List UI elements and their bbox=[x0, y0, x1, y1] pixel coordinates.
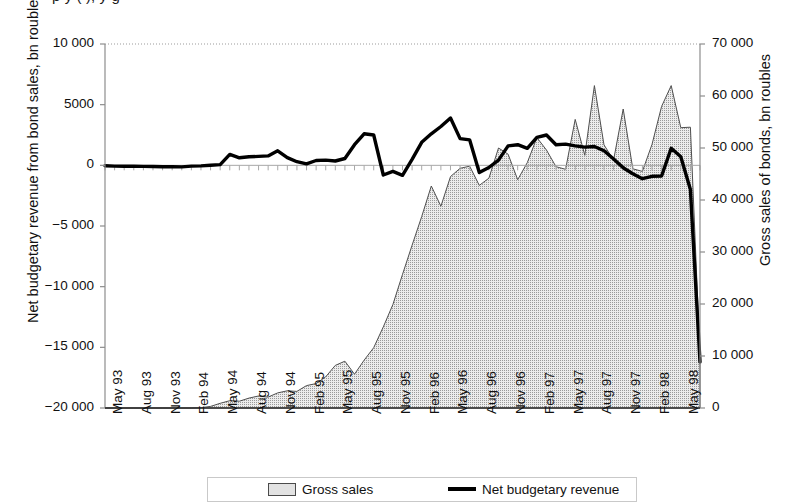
right-axis-tick-label: 60 000 bbox=[712, 87, 753, 102]
x-axis-tick-label: Nov 96 bbox=[513, 371, 528, 414]
left-axis-tick-label: −20 000 bbox=[0, 399, 94, 414]
area-swatch-icon bbox=[268, 483, 296, 496]
x-axis-tick-label: Aug 95 bbox=[369, 371, 384, 414]
right-axis-tick-label: 20 000 bbox=[712, 295, 753, 310]
right-axis-tick-label: 50 000 bbox=[712, 139, 753, 154]
x-axis-tick-label: May 95 bbox=[340, 370, 355, 414]
left-axis-tick-label: −10 000 bbox=[0, 278, 94, 293]
legend-label-gross-sales: Gross sales bbox=[302, 482, 373, 497]
left-axis-tick-label: 0 bbox=[0, 156, 94, 171]
x-axis-tick-label: Aug 96 bbox=[484, 371, 499, 414]
legend-label-net-revenue: Net budgetary revenue bbox=[482, 482, 619, 497]
left-axis-tick-label: 10 000 bbox=[0, 35, 94, 50]
right-axis-tick-label: 0 bbox=[712, 399, 720, 414]
x-axis-tick-label: Aug 97 bbox=[599, 371, 614, 414]
legend-item-net-revenue: Net budgetary revenue bbox=[448, 480, 619, 498]
left-axis-tick-label: 5000 bbox=[0, 96, 94, 111]
x-axis-tick-label: May 98 bbox=[686, 370, 701, 414]
left-axis-tick-label: −15 000 bbox=[0, 338, 94, 353]
x-axis-tick-label: Aug 93 bbox=[139, 371, 154, 414]
right-axis-tick-label: 40 000 bbox=[712, 191, 753, 206]
gross-sales-area bbox=[105, 86, 700, 408]
right-axis-tick-label: 10 000 bbox=[712, 347, 753, 362]
x-axis-tick-label: May 96 bbox=[455, 370, 470, 414]
x-axis-tick-label: Feb 94 bbox=[196, 372, 211, 414]
x-axis-tick-label: May 93 bbox=[110, 370, 125, 414]
x-axis-tick-label: May 97 bbox=[571, 370, 586, 414]
x-axis-tick-label: Feb 97 bbox=[542, 372, 557, 414]
x-axis-tick-label: Nov 97 bbox=[628, 371, 643, 414]
line-swatch-icon bbox=[448, 487, 476, 491]
right-axis-tick-label: 30 000 bbox=[712, 243, 753, 258]
x-axis-tick-label: Nov 93 bbox=[168, 371, 183, 414]
right-axis-tick-label: 70 000 bbox=[712, 35, 753, 50]
legend-item-gross-sales: Gross sales bbox=[268, 480, 373, 498]
x-axis-tick-label: May 94 bbox=[225, 370, 240, 414]
x-axis-tick-label: Feb 98 bbox=[657, 372, 672, 414]
x-axis-tick-label: Aug 94 bbox=[254, 371, 269, 414]
x-axis-tick-label: Feb 96 bbox=[427, 372, 442, 414]
x-axis-tick-label: Nov 95 bbox=[398, 371, 413, 414]
x-axis-tick-label: Feb 95 bbox=[312, 372, 327, 414]
left-axis-tick-label: −5 000 bbox=[0, 217, 94, 232]
x-axis-tick-label: Nov 94 bbox=[283, 371, 298, 414]
chart-legend: Gross sales Net budgetary revenue bbox=[207, 477, 637, 502]
